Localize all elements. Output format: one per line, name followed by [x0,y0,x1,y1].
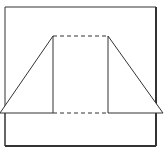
trapezoid-fill [0,36,163,113]
diagram-canvas [0,0,164,148]
frame-lower-segments [5,113,156,146]
